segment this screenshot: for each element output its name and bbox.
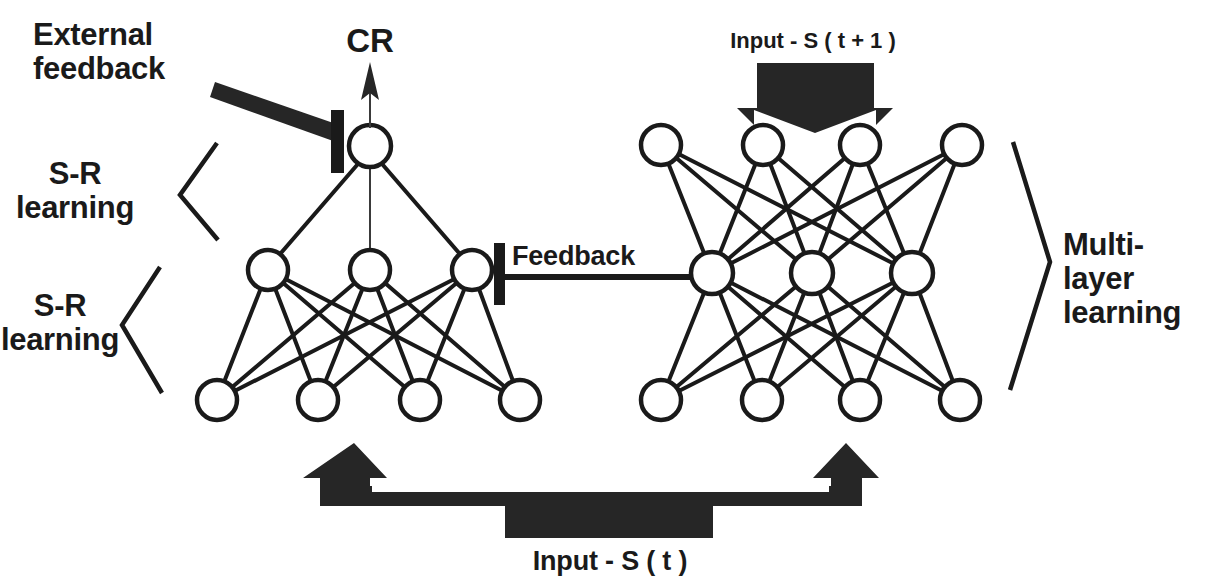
input-s-t-forked-arrow-icon — [303, 443, 879, 538]
external-feedback-label-line1: External — [33, 17, 153, 52]
node — [349, 125, 391, 167]
node — [840, 380, 880, 420]
sr-learning-top-line2: learning — [16, 190, 134, 225]
multilayer-line3: learning — [1063, 295, 1181, 330]
right-hidden-layer-nodes — [691, 252, 933, 294]
sr-learning-bottom-line1: S-R — [34, 288, 87, 323]
sr-learning-bottom-line2: learning — [1, 322, 119, 357]
node — [350, 250, 390, 290]
sr-learning-top-line1: S-R — [49, 156, 102, 191]
node — [500, 380, 540, 420]
node — [298, 380, 338, 420]
sr-learning-label-top: S-R learning — [16, 156, 134, 225]
node — [400, 380, 440, 420]
feedback-label: Feedback — [512, 241, 636, 271]
network-architecture-diagram: Input - S ( t ) — [0, 0, 1230, 581]
multilayer-line1: Multi- — [1063, 227, 1144, 262]
input-s-t-plus-1-label: Input - S ( t + 1 ) — [730, 28, 896, 53]
multilayer-line2: layer — [1063, 261, 1134, 296]
node — [942, 125, 982, 165]
node — [940, 380, 980, 420]
blunt-terminal-bar — [331, 110, 344, 173]
left-output-layer-nodes — [349, 125, 391, 167]
input-s-t-label: Input - S ( t ) — [533, 546, 687, 576]
sr-network-left — [197, 125, 540, 420]
node — [743, 125, 783, 165]
feedback-blunt-terminal-bar — [494, 243, 505, 305]
left-hidden-layer-nodes — [248, 250, 492, 290]
diagram-canvas: Input - S ( t ) — [0, 0, 1230, 581]
cr-up-arrow-icon — [361, 62, 379, 128]
node — [840, 125, 880, 165]
input-s-t-plus-1-arrow-icon — [737, 63, 893, 133]
node — [641, 125, 681, 165]
node — [197, 380, 237, 420]
node — [891, 252, 933, 294]
multilayer-network-right — [641, 125, 982, 420]
node — [791, 252, 833, 294]
sr-learning-label-bottom: S-R learning — [1, 288, 119, 357]
node — [248, 250, 288, 290]
multilayer-brace-icon — [1010, 142, 1050, 390]
cr-output-label: CR — [346, 22, 394, 59]
external-feedback-arrow-icon — [210, 82, 344, 173]
node — [691, 252, 733, 294]
multilayer-learning-label: Multi- layer learning — [1063, 227, 1181, 330]
node — [742, 380, 782, 420]
sr-learning-brace-top-icon — [180, 143, 218, 240]
node — [452, 250, 492, 290]
node — [641, 380, 681, 420]
external-feedback-label: External feedback — [33, 17, 166, 86]
external-feedback-label-line2: feedback — [33, 51, 166, 86]
sr-learning-brace-bottom-icon — [122, 267, 162, 393]
